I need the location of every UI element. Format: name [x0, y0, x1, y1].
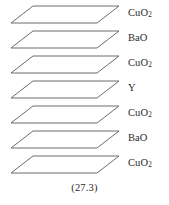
layer-label: BaO — [128, 132, 148, 146]
layer-label: BaO — [128, 32, 148, 46]
layer-label: CuO2 — [128, 157, 152, 171]
layer-label: CuO2 — [128, 7, 152, 21]
layer-row: CuO2 — [0, 2, 169, 28]
plane-parallelogram-icon — [6, 77, 124, 103]
layer-label: Y — [128, 82, 136, 96]
layer-label: CuO2 — [128, 57, 152, 71]
plane-parallelogram-icon — [6, 2, 124, 28]
plane-parallelogram-icon — [6, 152, 124, 178]
layer-row: CuO2 — [0, 152, 169, 178]
layer-row: CuO2 — [0, 52, 169, 78]
plane-parallelogram-icon — [6, 27, 124, 53]
plane-parallelogram-icon — [6, 127, 124, 153]
layer-row: Y — [0, 77, 169, 103]
layer-label: CuO2 — [128, 107, 152, 121]
layer-row: BaO — [0, 127, 169, 153]
crystal-structure-figure: CuO2 BaO CuO2 Y CuO2 — [0, 0, 169, 205]
plane-parallelogram-icon — [6, 52, 124, 78]
layer-row: BaO — [0, 27, 169, 53]
figure-caption: (27.3) — [0, 182, 169, 193]
layer-stack: CuO2 BaO CuO2 Y CuO2 — [0, 0, 169, 180]
plane-parallelogram-icon — [6, 102, 124, 128]
layer-row: CuO2 — [0, 102, 169, 128]
